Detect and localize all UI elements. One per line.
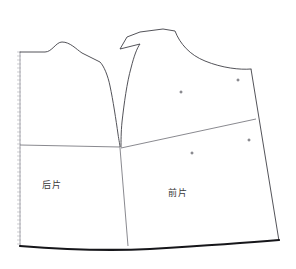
drawing-background <box>0 0 296 269</box>
front-piece-label: 前片 <box>168 186 188 199</box>
back-piece-label: 后片 <box>42 178 62 191</box>
pattern-drawing-canvas: 后片 前片 <box>0 0 296 269</box>
pattern-vector-drawing <box>0 0 296 269</box>
